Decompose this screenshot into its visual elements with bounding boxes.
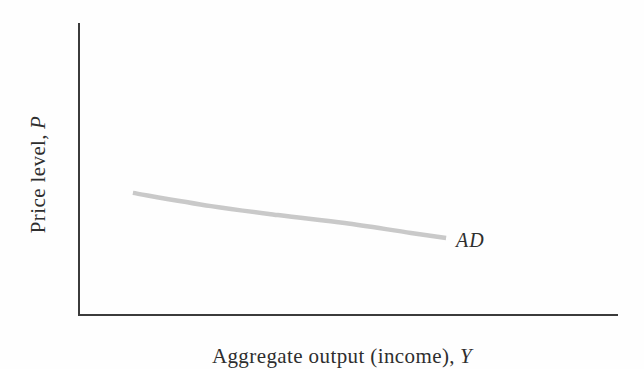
x-axis-label-symbol: Y	[460, 344, 472, 368]
x-axis-label: Aggregate output (income),Y	[177, 344, 507, 369]
x-axis-label-text: Aggregate output (income),	[212, 344, 455, 368]
y-axis-label-symbol: P	[26, 116, 50, 129]
ad-curve-label: AD	[456, 229, 485, 252]
y-axis-label-text: Price level,	[26, 134, 50, 233]
y-axis-label: Price level,P	[26, 90, 51, 260]
ad-curve-figure: Price level,P Aggregate output (income),…	[0, 0, 644, 369]
plot-svg	[0, 0, 644, 369]
ad-curve	[133, 193, 446, 238]
